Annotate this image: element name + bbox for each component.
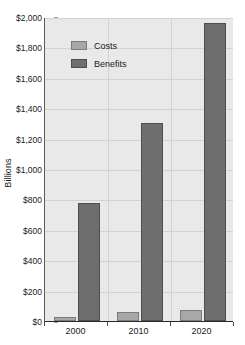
x-axis-tick-label: 2010	[128, 326, 148, 336]
y-axis-tick-label: $0	[14, 317, 42, 327]
x-axis-tick-label: 2020	[191, 326, 211, 336]
bar-costs-2020	[180, 310, 202, 321]
y-axis-tick-label: $1,200	[14, 135, 42, 145]
x-axis-tick-label: 2000	[65, 326, 85, 336]
y-axis-tick-label: $800	[14, 195, 42, 205]
y-axis-tick-label: $1,000	[14, 165, 42, 175]
y-axis-tick-label: $600	[14, 226, 42, 236]
bar-benefits-2000	[78, 203, 100, 321]
y-axis-tick-label: $1,600	[14, 74, 42, 84]
y-axis-tick-label: $200	[14, 287, 42, 297]
plot-area: CostsBenefits	[44, 18, 233, 322]
bar-costs-2010	[117, 312, 139, 321]
chart-legend: CostsBenefits	[71, 38, 127, 74]
x-axis-tick-mark	[233, 322, 234, 326]
y-axis-tick-label: $400	[14, 256, 42, 266]
bar-benefits-2010	[141, 123, 163, 321]
y-axis-tick-labels: $0$200$400$600$800$1,000$1,200$1,400$1,6…	[14, 0, 42, 345]
legend-entry-costs: Costs	[71, 38, 127, 53]
legend-label: Costs	[94, 41, 117, 51]
legend-swatch-icon	[71, 59, 87, 68]
bar-costs-2000	[54, 317, 76, 321]
legend-entry-benefits: Benefits	[71, 56, 127, 71]
y-axis-title-label: Billions	[3, 158, 13, 187]
bar-chart-figure: Billions $0$200$400$600$800$1,000$1,200$…	[0, 0, 245, 345]
legend-label: Benefits	[94, 59, 127, 69]
x-axis-tick-labels: 200020102020	[44, 326, 233, 342]
bar-benefits-2020	[204, 23, 226, 321]
legend-swatch-icon	[71, 41, 87, 50]
y-axis-tick-label: $1,800	[14, 43, 42, 53]
y-axis-tick-label: $2,000	[14, 13, 42, 23]
y-axis-tick-label: $1,400	[14, 104, 42, 114]
